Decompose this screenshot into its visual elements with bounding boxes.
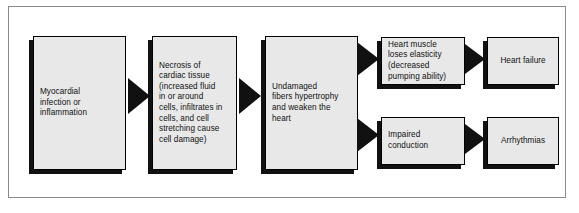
flow-node-impaired-conduction: Impaired conduction <box>381 117 465 165</box>
flow-node-label: Arrhythmias <box>488 136 558 147</box>
flow-arrow-5-upper <box>465 44 485 74</box>
flow-node-necrosis: Necrosis of cardiac tissue (increased fl… <box>152 36 237 170</box>
flow-node-loses-elasticity: Heart muscle loses elasticity (decreased… <box>381 37 465 85</box>
flow-node-label: Heart failure <box>488 56 558 67</box>
flow-node-myocardial-infection: Myocardial infection or inflammation <box>33 36 126 170</box>
flow-arrow-1 <box>128 78 150 114</box>
flow-arrow-4-lower <box>357 118 379 152</box>
flow-node-label: Myocardial infection or inflammation <box>34 87 125 119</box>
flow-arrow-2 <box>239 78 261 114</box>
flow-node-label: Impaired conduction <box>382 130 464 151</box>
flow-node-undamaged-fibers: Undamaged fibers hypertrophy and weaken … <box>265 36 358 170</box>
flow-node-heart-failure: Heart failure <box>487 37 559 85</box>
flow-node-arrhythmias: Arrhythmias <box>487 117 559 165</box>
flow-node-label: Necrosis of cardiac tissue (increased fl… <box>153 61 236 146</box>
flow-arrow-6-lower <box>465 124 485 154</box>
flow-node-label: Undamaged fibers hypertrophy and weaken … <box>266 82 357 124</box>
flowchart-canvas: Myocardial infection or inflammation Nec… <box>0 0 579 213</box>
flow-node-label: Heart muscle loses elasticity (decreased… <box>382 40 464 82</box>
flow-arrow-3-upper <box>357 42 379 76</box>
